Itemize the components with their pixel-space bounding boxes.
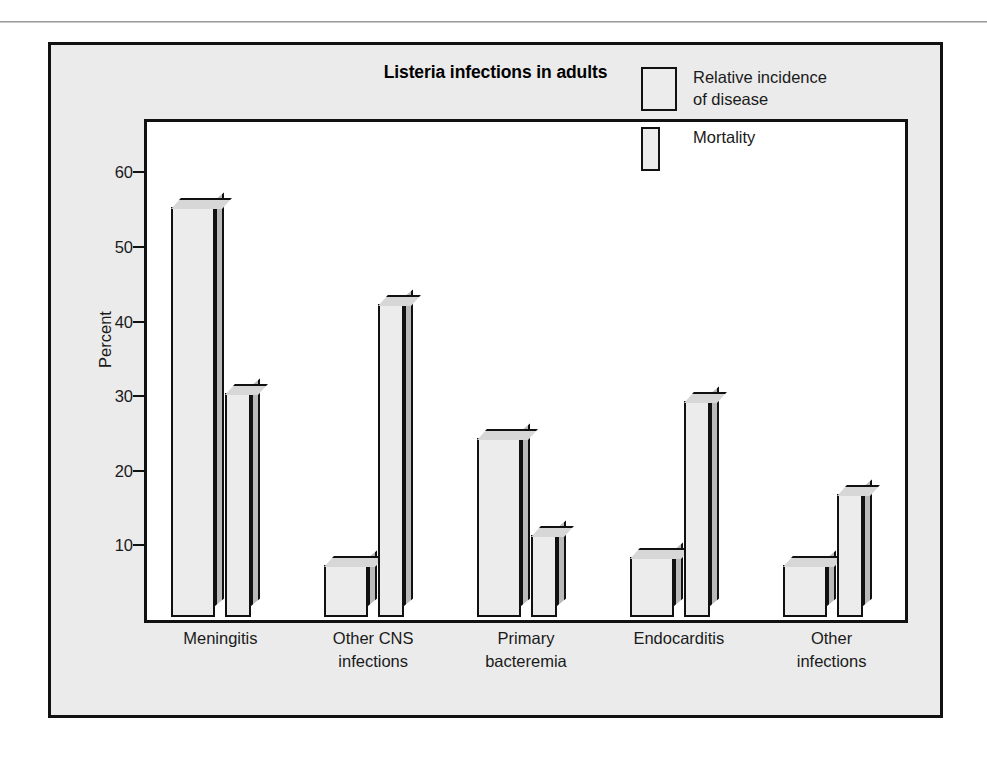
y-axis-tick-mark [133, 171, 144, 173]
bar [378, 304, 404, 617]
x-axis-category-labels: MeningitisOther CNSinfectionsPrimarybact… [144, 627, 908, 707]
legend-label: Mortality [693, 127, 755, 149]
bar-top-face [171, 198, 232, 209]
plot-surface [147, 122, 905, 620]
bar [225, 393, 251, 617]
bar-top-face [324, 556, 385, 567]
chart-legend: Relative incidence of diseaseMortality [641, 67, 896, 187]
bar-side-face [404, 289, 413, 606]
y-axis-tick-marks [133, 119, 144, 623]
bar-top-face [225, 384, 268, 395]
y-axis-tick-label: 10 [93, 536, 133, 555]
bar-side-face [863, 479, 872, 606]
page-top-rule [0, 21, 987, 23]
legend-swatch [641, 67, 677, 111]
bar-top-face [630, 548, 691, 559]
y-axis-tick-labels: 102030405060 [83, 119, 133, 623]
y-axis-tick-mark [133, 470, 144, 472]
bar-top-face [477, 429, 538, 440]
bar [783, 565, 827, 617]
bar-top-face [531, 526, 574, 537]
y-axis-tick-mark [133, 246, 144, 248]
y-axis-tick-mark [133, 321, 144, 323]
y-axis-tick-label: 40 [93, 312, 133, 331]
bar [324, 565, 368, 617]
legend-entry: Mortality [641, 127, 896, 171]
bar [837, 494, 863, 617]
bar [531, 535, 557, 617]
bar-side-face [215, 192, 224, 606]
y-axis-tick-label: 60 [93, 163, 133, 182]
bar [630, 557, 674, 617]
x-axis-category-label: Endocarditis [602, 627, 755, 650]
y-axis-tick-mark [133, 395, 144, 397]
legend-entry: Relative incidence of disease [641, 67, 896, 111]
bar [477, 438, 521, 617]
plot-area [144, 119, 908, 623]
x-axis-category-label: Meningitis [144, 627, 297, 650]
bar-side-face [521, 423, 530, 606]
bar [684, 401, 710, 617]
x-axis-category-label: Otherinfections [755, 627, 908, 673]
y-axis-tick-label: 20 [93, 461, 133, 480]
x-axis-category-label: Primarybacteremia [450, 627, 603, 673]
x-axis-category-label: Other CNSinfections [297, 627, 450, 673]
bar-top-face [783, 556, 844, 567]
legend-swatch [641, 127, 660, 171]
bar-top-face [378, 295, 421, 306]
bar-top-face [684, 392, 727, 403]
legend-label: Relative incidence of disease [693, 67, 827, 111]
y-axis-tick-label: 50 [93, 237, 133, 256]
y-axis-tick-mark [133, 544, 144, 546]
y-axis-tick-label: 30 [93, 387, 133, 406]
figure-frame: Listeria infections in adults Percent 10… [48, 42, 943, 718]
bar [171, 207, 215, 617]
bar-top-face [837, 485, 880, 496]
bar-side-face [710, 386, 719, 606]
bar-side-face [251, 379, 260, 606]
